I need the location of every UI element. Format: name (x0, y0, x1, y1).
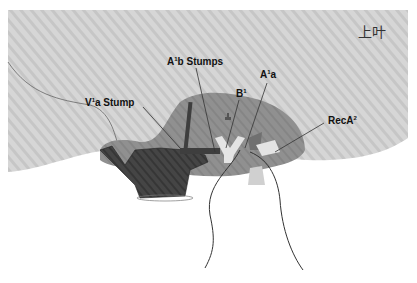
b1-marker-stem (227, 113, 229, 119)
label-reca2: RecA2 (328, 115, 358, 126)
surgical-diagram: 上叶 V1a Stump A1b Stumps B1 A1a RecA2 (0, 0, 417, 283)
diagram-canvas: 上叶 V1a Stump A1b Stumps B1 A1a RecA2 (0, 0, 417, 283)
upper-lobe-label: 上叶 (358, 24, 386, 40)
